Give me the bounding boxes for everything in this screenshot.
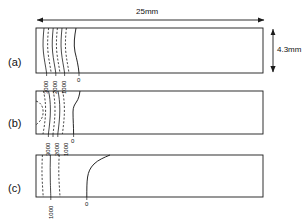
panel-c-contours — [42, 155, 110, 197]
panel-b-tick-1000: 1000 — [63, 143, 69, 156]
panel-c-tick-0: 0 — [85, 201, 88, 207]
contour-a-3000 — [43, 28, 47, 73]
contour-c-1500 — [42, 155, 43, 197]
panel-a-tick-1000: 1000 — [61, 81, 67, 94]
panel-b-tick-0: 0 — [71, 138, 74, 144]
contour-b-1000 — [58, 91, 60, 134]
panel-letter-b: (b) — [8, 117, 21, 129]
panel-a-outline — [36, 28, 263, 73]
contour-a-0 — [74, 28, 79, 73]
contour-a-2000 — [52, 28, 56, 73]
contour-b-1750 — [53, 91, 55, 134]
contour-figure-svg — [0, 0, 306, 223]
panel-b-contours — [36, 91, 80, 134]
contour-a-1750 — [56, 28, 60, 73]
panel-b-tick-2000: 2000 — [54, 143, 60, 156]
panel-c-tick-1000: 1000 — [48, 206, 54, 219]
width-dimension-label: 25mm — [136, 7, 158, 16]
contour-a-2750 — [48, 28, 52, 73]
contour-b-2000 — [48, 91, 50, 134]
contour-b-3000 — [36, 101, 43, 125]
contour-a-1000 — [61, 28, 65, 73]
contour-b-750 — [62, 91, 64, 134]
panel-c — [36, 155, 263, 200]
contour-c-0 — [87, 155, 110, 197]
figure-container: (a) (b) (c) 25mm 4.3mm 3000 2000 1000 0 … — [0, 0, 306, 223]
panel-a-contours — [43, 28, 79, 73]
contour-b-2750 — [43, 91, 46, 134]
contour-a-750 — [65, 28, 69, 73]
panel-letter-a: (a) — [8, 56, 21, 68]
height-dimension-label: 4.3mm — [277, 45, 301, 54]
contour-c-1000 — [50, 155, 51, 197]
panel-a — [36, 28, 263, 76]
panel-b-outline — [36, 91, 263, 134]
panel-a-tick-0: 0 — [77, 77, 80, 83]
panel-b — [36, 91, 263, 137]
contour-c-500 — [59, 155, 60, 197]
contour-b-0 — [73, 91, 80, 134]
panel-b-tick-3000: 3000 — [45, 143, 51, 156]
panel-c-outline — [36, 155, 263, 197]
panel-a-tick-3000: 3000 — [43, 81, 49, 94]
panel-a-tick-2000: 2000 — [52, 81, 58, 94]
panel-letter-c: (c) — [8, 182, 21, 194]
